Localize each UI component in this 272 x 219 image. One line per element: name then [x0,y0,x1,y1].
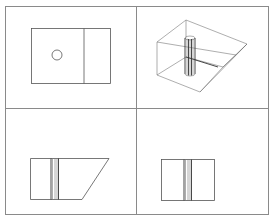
iso-cylinder [185,36,195,76]
iso-top-back-edges [157,20,247,44]
iso-axis-line [186,57,218,67]
iso-top-front-edge [157,42,236,55]
top-view [32,29,111,84]
iso-bottom-front-edge [157,75,200,92]
isometric-view [157,20,247,92]
side-view [162,160,215,201]
drawing-svg [0,0,272,219]
top-view-hole [52,50,62,60]
front-view-outline [31,159,110,200]
top-view-outline [32,29,111,84]
front-view [31,159,110,200]
technical-drawing [0,0,272,219]
iso-slant-front [200,44,247,92]
iso-slant-mid [223,55,236,67]
grid-frame [6,7,269,215]
iso-slant-base [200,67,223,92]
iso-bottom-back-edge [157,57,186,75]
